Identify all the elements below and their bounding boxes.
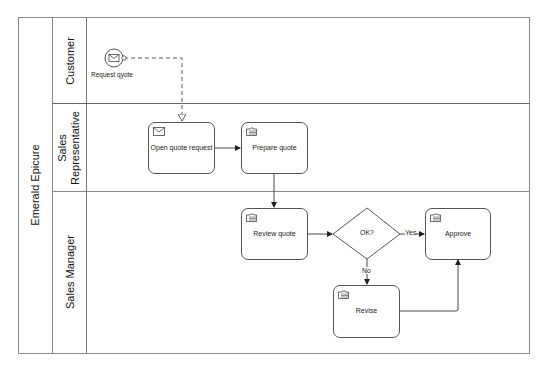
lane-label-sales-manager: Sales Manager [63, 222, 77, 322]
task-approve[interactable]: Approve [425, 208, 491, 260]
task-label: Review quote [242, 230, 307, 237]
manual-task-icon [430, 213, 441, 222]
task-label: Approve [426, 230, 490, 237]
task-prepare-quote[interactable]: Prepare quote [241, 122, 308, 174]
task-open-quote-request[interactable]: Open quote request [148, 122, 215, 174]
start-event[interactable] [105, 49, 123, 67]
task-review-quote[interactable]: Review quote [241, 208, 308, 260]
manual-task-icon [246, 127, 257, 136]
manual-task-icon [338, 290, 349, 299]
lane-label-line2: Representative [69, 97, 82, 199]
flow-label-no: No [362, 267, 371, 274]
bpmn-diagram: Emerald Epicure Customer Sales Represent… [0, 0, 548, 370]
task-label: Prepare quote [242, 144, 307, 151]
envelope-icon [153, 127, 165, 136]
lane-label-customer: Customer [63, 21, 77, 101]
task-revise[interactable]: Revise [333, 285, 400, 338]
pool-label: Emerald Epicure [28, 135, 42, 235]
manual-task-icon [246, 213, 257, 222]
sequence-flow-revise-to-approve[interactable] [399, 260, 458, 311]
flow-label-yes: Yes [405, 229, 416, 236]
task-label: Revise [334, 307, 399, 314]
gateway-label: OK? [357, 229, 377, 236]
lane-label-sales-representative: Sales Representative [56, 97, 84, 199]
task-label: Open quote request [149, 144, 214, 151]
lane-label-line1: Sales [56, 97, 69, 199]
start-event-label: Request qyote [91, 71, 133, 78]
message-flow[interactable] [124, 58, 182, 121]
